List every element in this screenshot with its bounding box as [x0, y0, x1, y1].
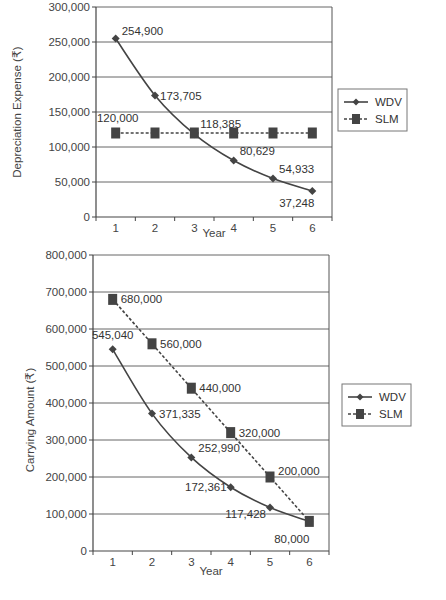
square-marker-icon	[305, 516, 314, 527]
y-tick-label: 700,000	[45, 286, 87, 298]
x-tick-label: 3	[188, 556, 194, 568]
legend: WDV SLM	[338, 89, 407, 131]
data-label: 172,361	[185, 481, 227, 493]
square-marker-icon	[356, 409, 364, 419]
y-tick-label: 0	[81, 545, 87, 557]
data-label: 545,040	[92, 329, 134, 341]
diamond-marker-icon	[109, 345, 117, 353]
charts-canvas: 050,000100,000150,000200,000250,000300,0…	[0, 0, 446, 600]
square-marker-icon	[266, 472, 275, 483]
data-label: 117,428	[225, 508, 266, 520]
x-tick-label: 5	[270, 222, 276, 234]
square-marker-icon	[111, 128, 120, 139]
legend-slm: SLM	[375, 113, 399, 125]
y-tick-label: 200,000	[48, 71, 90, 83]
x-axis-title: Year	[199, 565, 222, 577]
diamond-marker-icon	[308, 187, 316, 195]
carrying-amount-chart: 0100,000200,000300,000400,000500,000600,…	[24, 249, 411, 577]
data-label: 440,000	[199, 382, 241, 394]
legend-slm: SLM	[379, 408, 403, 420]
x-tick-label: 1	[109, 556, 115, 568]
data-label: 80,629	[240, 145, 275, 157]
diamond-marker-icon	[266, 504, 274, 512]
y-tick-label: 500,000	[45, 360, 87, 372]
legend-wdv: WDV	[379, 391, 406, 403]
y-tick-label: 600,000	[45, 323, 87, 335]
data-label: 54,933	[279, 163, 314, 175]
square-marker-icon	[226, 427, 235, 438]
diamond-marker-icon	[227, 483, 235, 491]
square-marker-icon	[187, 383, 196, 394]
y-tick-label: 150,000	[48, 106, 90, 118]
data-label: 560,000	[160, 338, 202, 350]
data-label: 118,385	[200, 118, 241, 130]
x-tick-label: 2	[149, 556, 155, 568]
data-label: 254,900	[122, 25, 164, 37]
y-tick-label: 100,000	[45, 508, 87, 520]
data-label: 80,000	[274, 533, 309, 545]
x-tick-label: 6	[309, 222, 315, 234]
y-tick-label: 0	[84, 211, 90, 223]
y-tick-label: 200,000	[45, 471, 87, 483]
x-tick-label: 4	[230, 222, 237, 234]
square-marker-icon	[108, 294, 117, 305]
legend: WDV SLM	[342, 384, 411, 426]
data-label: 252,990	[198, 442, 240, 454]
depreciation-expense-chart: 050,000100,000150,000200,000250,000300,0…	[11, 1, 407, 239]
y-tick-label: 250,000	[48, 36, 90, 48]
diamond-marker-icon	[269, 175, 277, 183]
data-label: 200,000	[278, 465, 320, 477]
square-marker-icon	[151, 128, 160, 139]
data-label: 173,705	[160, 90, 202, 102]
y-tick-label: 800,000	[45, 249, 87, 261]
y-axis-tick-labels: 0100,000200,000300,000400,000500,000600,…	[45, 249, 87, 557]
data-labels: 545,040371,335252,990172,361117,42880,00…	[92, 293, 320, 545]
data-label: 320,000	[239, 427, 281, 439]
x-tick-label: 3	[191, 222, 197, 234]
data-label: 680,000	[121, 293, 163, 305]
data-label: 37,248	[279, 197, 314, 209]
square-marker-icon	[308, 128, 317, 139]
x-axis-title: Year	[202, 227, 225, 239]
square-marker-icon	[148, 338, 157, 349]
x-tick-label: 1	[112, 222, 118, 234]
y-tick-label: 300,000	[45, 434, 87, 446]
y-tick-label: 300,000	[48, 1, 90, 13]
x-tick-label: 2	[152, 222, 158, 234]
y-axis-title: Depreciation Expense (₹)	[11, 46, 23, 178]
diamond-marker-icon	[230, 157, 238, 165]
y-axis-title: Carrying Amount (₹)	[24, 368, 36, 473]
data-label: 371,335	[159, 408, 201, 420]
data-label: 120,000	[97, 112, 139, 124]
y-axis-tick-labels: 050,000100,000150,000200,000250,000300,0…	[48, 1, 90, 223]
y-tick-label: 100,000	[48, 141, 90, 153]
square-marker-icon	[190, 128, 199, 139]
x-tick-label: 6	[306, 556, 312, 568]
x-tick-label: 4	[227, 556, 234, 568]
y-tick-label: 400,000	[45, 397, 87, 409]
square-marker-icon	[352, 114, 360, 124]
y-tick-label: 50,000	[55, 176, 90, 188]
legend-wdv: WDV	[375, 96, 402, 108]
square-marker-icon	[269, 128, 278, 139]
x-tick-label: 5	[267, 556, 273, 568]
